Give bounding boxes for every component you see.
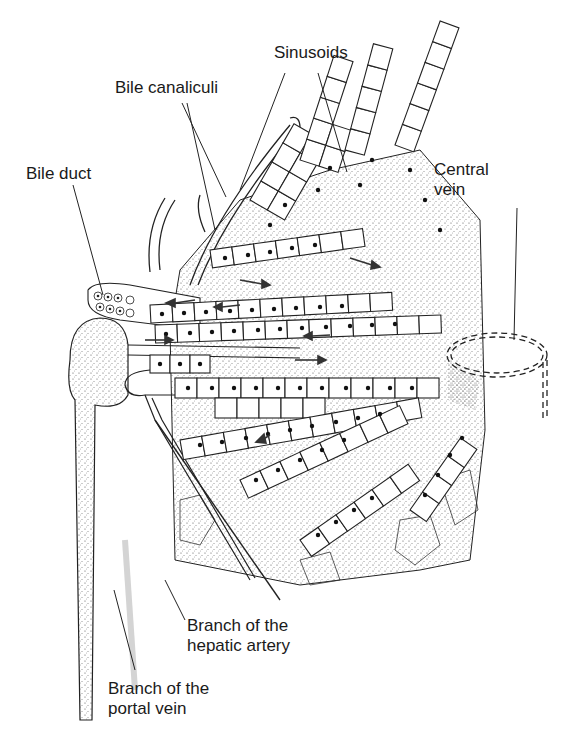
label-sinusoids: Sinusoids bbox=[274, 43, 348, 63]
label-bile-duct: Bile duct bbox=[26, 164, 91, 184]
diagram-illustration bbox=[0, 0, 580, 754]
label-bile-canaliculi: Bile canaliculi bbox=[115, 78, 218, 98]
label-central-vein: Central vein bbox=[434, 160, 489, 200]
liver-lobule-diagram: Sinusoids Bile canaliculi Bile duct Cent… bbox=[0, 0, 580, 754]
tissue-block bbox=[170, 150, 485, 585]
label-hepatic-artery: Branch of the hepatic artery bbox=[187, 616, 290, 656]
label-portal-vein: Branch of the portal vein bbox=[108, 679, 209, 719]
